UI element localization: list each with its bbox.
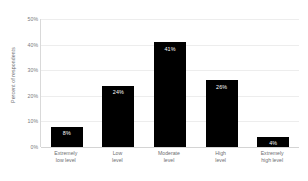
- bar[interactable]: 26%: [206, 80, 238, 147]
- bar[interactable]: 8%: [51, 127, 83, 147]
- bar-data-label: 26%: [206, 84, 238, 90]
- bar-chart: Percent of respondents 0%10%20%30%40%50%…: [0, 0, 308, 181]
- category-label-line: level: [143, 157, 195, 164]
- category-label-line: Extremely: [246, 150, 298, 157]
- category-label-line: High: [195, 150, 247, 157]
- bar[interactable]: 4%: [257, 137, 289, 147]
- y-axis-tick-label: 40%: [28, 42, 38, 48]
- bar-data-label: 41%: [154, 46, 186, 52]
- y-axis-tick-label: 30%: [28, 67, 38, 73]
- bar-data-label: 24%: [102, 89, 134, 95]
- bar-data-label: 4%: [257, 140, 289, 146]
- plot-area: 0%10%20%30%40%50% 8%24%41%26%4%: [40, 19, 299, 147]
- bar-slot: 41%: [144, 19, 196, 147]
- bar[interactable]: 24%: [102, 86, 134, 147]
- bar-slot: 24%: [93, 19, 145, 147]
- category-label-line: level: [195, 157, 247, 164]
- y-axis-tick-label: 20%: [28, 93, 38, 99]
- category-label-line: high level: [246, 157, 298, 164]
- y-axis-tick-label: 50%: [28, 16, 38, 22]
- bar-data-label: 8%: [51, 130, 83, 136]
- x-axis-category-labels: Extremelylow levelLowlevelModeratelevelH…: [40, 150, 298, 178]
- x-axis-category-label: Extremelyhigh level: [246, 150, 298, 164]
- y-axis-tick-label: 0%: [31, 144, 39, 150]
- category-label-line: Extremely: [40, 150, 92, 157]
- x-axis-category-label: Lowlevel: [92, 150, 144, 164]
- x-axis-category-label: Highlevel: [195, 150, 247, 164]
- y-axis-tick-label: 10%: [28, 118, 38, 124]
- bar[interactable]: 41%: [154, 42, 186, 147]
- axis-baseline: 0%: [41, 147, 299, 148]
- bar-slot: 4%: [247, 19, 299, 147]
- bars-group: 8%24%41%26%4%: [41, 19, 299, 147]
- bar-slot: 26%: [196, 19, 248, 147]
- category-label-line: Low: [92, 150, 144, 157]
- y-axis-title-text: Percent of respondents: [10, 47, 16, 103]
- category-label-line: level: [92, 157, 144, 164]
- bar-slot: 8%: [41, 19, 93, 147]
- category-label-line: Moderate: [143, 150, 195, 157]
- x-axis-category-label: Moderatelevel: [143, 150, 195, 164]
- category-label-line: low level: [40, 157, 92, 164]
- y-axis-title: Percent of respondents: [6, 0, 20, 150]
- x-axis-category-label: Extremelylow level: [40, 150, 92, 164]
